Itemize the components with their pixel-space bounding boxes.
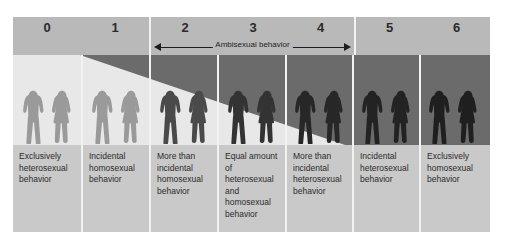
male-silhouette <box>292 86 318 144</box>
header-number-1: 1 <box>81 17 149 39</box>
caption-col-3: Equal amount of heterosexual and homosex… <box>217 145 285 232</box>
caption-col-1: Incidental homosexual behavior <box>81 145 149 232</box>
male-silhouette <box>225 86 251 144</box>
female-silhouette <box>49 86 75 144</box>
header-number-0: 0 <box>13 17 81 39</box>
silhouette-col-3 <box>217 55 285 145</box>
male-silhouette <box>157 86 183 144</box>
caption-col-4: More than incidental heterosexual behavi… <box>285 145 352 232</box>
header-number-2: 2 <box>151 17 219 39</box>
silhouette-columns <box>13 55 490 145</box>
caption-col-6: Exclusively homosexual behavior <box>419 145 486 232</box>
caption-col-2: More than incidental homosexual behavior <box>149 145 217 232</box>
silhouette-col-5 <box>352 55 419 145</box>
silhouette-col-0 <box>13 55 81 145</box>
female-silhouette <box>118 86 144 144</box>
caption-col-5: Incidental heterosexual behavior <box>352 145 419 232</box>
header-group-5-6: 5 6 <box>354 17 488 55</box>
caption-band: Exclusively heterosexual behavior Incide… <box>13 145 490 232</box>
silhouette-col-4 <box>285 55 352 145</box>
right-arrowhead-icon <box>344 43 351 51</box>
female-silhouette <box>321 86 347 144</box>
female-silhouette <box>455 86 481 144</box>
female-silhouette <box>186 86 212 144</box>
left-arrowhead-icon <box>154 43 161 51</box>
header-number-6: 6 <box>423 17 490 39</box>
ambisexual-label: Ambisexual behavior <box>212 40 292 49</box>
silhouette-col-6 <box>419 55 486 145</box>
male-silhouette <box>20 86 46 144</box>
male-silhouette <box>426 86 452 144</box>
header-group-2-4: 2 3 4 Ambisexual behavior <box>149 17 354 55</box>
silhouette-band <box>13 55 490 145</box>
header-number-4: 4 <box>287 17 354 39</box>
header-number-3: 3 <box>219 17 287 39</box>
silhouette-col-2 <box>149 55 217 145</box>
header-band: 0 1 2 3 4 Ambisexual behavior 5 6 <box>13 17 490 55</box>
ambisexual-range-indicator: Ambisexual behavior <box>151 39 354 55</box>
header-number-5: 5 <box>356 17 423 39</box>
female-silhouette <box>388 86 414 144</box>
male-silhouette <box>359 86 385 144</box>
male-silhouette <box>89 86 115 144</box>
kinsey-scale-diagram: 0 1 2 3 4 Ambisexual behavior 5 6 <box>13 17 490 232</box>
silhouette-col-1 <box>81 55 149 145</box>
female-silhouette <box>254 86 280 144</box>
caption-col-0: Exclusively heterosexual behavior <box>13 145 81 232</box>
header-group-0-1: 0 1 <box>13 17 149 55</box>
